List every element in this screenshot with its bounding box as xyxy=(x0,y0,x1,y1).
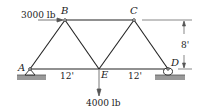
dimension-label-height: 8' xyxy=(181,40,189,50)
load-label-3000: 3000 lb xyxy=(21,10,56,20)
node-label-e: E xyxy=(100,69,109,80)
truss-diagram: 3000 lb 4000 lb A B C D E 8' 12' 12' xyxy=(0,0,197,111)
load-label-4000: 4000 lb xyxy=(86,98,121,108)
dimension-label-span-left: 12' xyxy=(60,71,74,81)
member-ab xyxy=(30,20,65,69)
node-label-b: B xyxy=(60,5,68,16)
member-cd xyxy=(134,20,168,69)
node-label-a: A xyxy=(17,62,25,73)
roller-support-d xyxy=(164,68,173,75)
joint-c xyxy=(133,19,136,22)
ground-d xyxy=(155,75,185,80)
ground-a xyxy=(17,75,46,80)
dimension-label-span-right: 12' xyxy=(128,71,142,81)
node-label-c: C xyxy=(130,5,138,16)
node-label-d: D xyxy=(170,57,179,68)
member-be xyxy=(65,20,99,69)
truss-members xyxy=(30,20,168,69)
member-ce xyxy=(99,20,134,69)
